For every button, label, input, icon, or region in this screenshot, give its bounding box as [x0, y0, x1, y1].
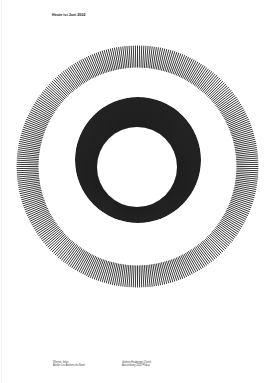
concentric-rings-artwork — [0, 0, 269, 383]
poster: Heute ist Juni 2002 Werner Jeker Atelier… — [0, 0, 269, 383]
footer-right-line2: Ausstellung 2002 Plakat — [122, 364, 151, 367]
footer-credit-right: Galerie Heuberger Zürich Ausstellung 200… — [122, 361, 151, 367]
inner-dark-ring — [73, 95, 203, 225]
footer-credit-left: Werner Jeker Atelier Les Ateliers du Nor… — [53, 361, 84, 367]
footer-left-line2: Atelier Les Ateliers du Nord — [53, 364, 84, 367]
